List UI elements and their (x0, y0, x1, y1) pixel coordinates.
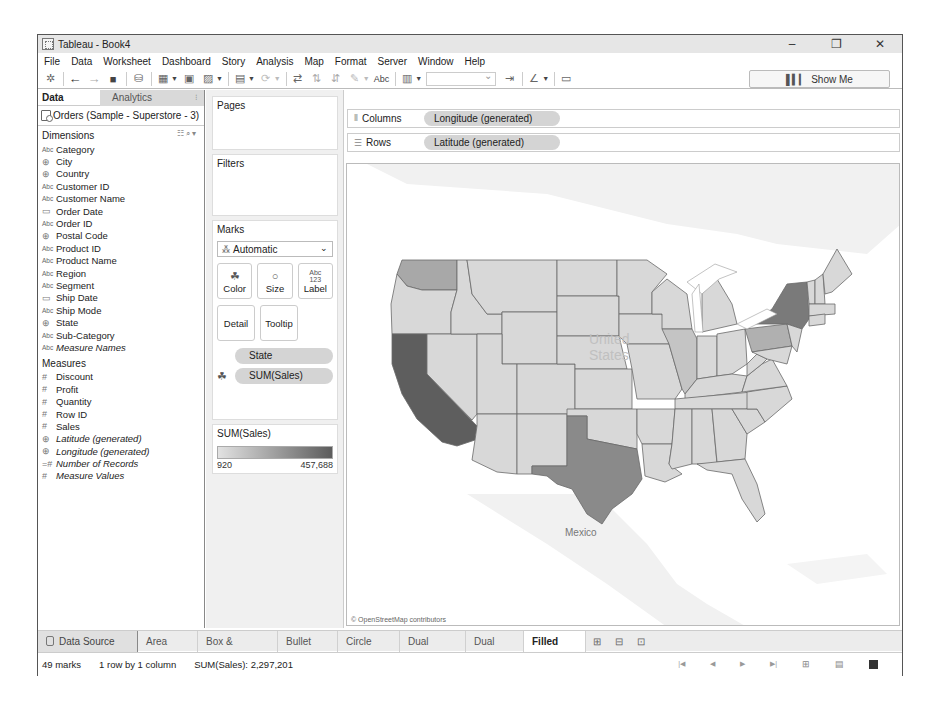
pin-icon[interactable]: ⁝ (195, 90, 198, 106)
menu-story[interactable]: Story (222, 56, 245, 67)
new-worksheet-icon[interactable]: ▦ (156, 72, 170, 86)
field-product-id[interactable]: AbcProduct ID (38, 242, 204, 254)
data-source-item[interactable]: Orders (Sample - Superstore - 3) (38, 106, 204, 126)
menu-analysis[interactable]: Analysis (256, 56, 293, 67)
chevron-down-icon[interactable]: ▾ (192, 129, 198, 138)
field-profit[interactable]: #Profit (38, 383, 204, 395)
clear-sheet-icon[interactable]: ▨ (201, 72, 215, 86)
chevron-down-icon[interactable]: ▼ (363, 75, 370, 82)
fit-dropdown[interactable] (426, 72, 496, 86)
map-attribution[interactable]: © OpenStreetMap contributors (351, 616, 446, 623)
state-pill[interactable]: State (235, 348, 333, 364)
close-button[interactable]: ✕ (858, 35, 902, 53)
new-dashboard-icon[interactable]: ⊟ (608, 636, 630, 647)
filters-shelf[interactable]: Filters (212, 154, 338, 216)
new-story-icon[interactable]: ⊡ (630, 636, 652, 647)
field-country[interactable]: ⊕Country (38, 168, 204, 180)
columns-shelf[interactable]: ⦀ Columns Longitude (generated) (347, 109, 900, 128)
us-states-map[interactable]: United States Mexico (347, 164, 900, 626)
field-row-id[interactable]: #Row ID (38, 408, 204, 420)
last-sheet-icon[interactable]: ▶| (770, 660, 777, 668)
presentation-mode-icon[interactable]: ▭ (559, 72, 573, 86)
undo-icon[interactable]: ← (68, 72, 82, 86)
save-icon[interactable]: ■ (106, 72, 120, 86)
field-sub-category[interactable]: AbcSub-Category (38, 329, 204, 341)
chevron-down-icon[interactable]: ▼ (248, 75, 255, 82)
field-state[interactable]: ⊕State (38, 316, 204, 328)
tooltip-button[interactable]: Tooltip (260, 305, 298, 341)
sheet-sorter-icon[interactable]: ⊞ (802, 659, 810, 669)
field-category[interactable]: AbcCategory (38, 143, 204, 155)
longitude-pill[interactable]: Longitude (generated) (424, 111, 560, 126)
show-mark-labels-icon[interactable]: Abc (374, 74, 390, 84)
field-order-date[interactable]: ▭Order Date (38, 205, 204, 217)
field-measure-values[interactable]: #Measure Values (38, 470, 204, 482)
show-me-button[interactable]: ▌▍▎ Show Me (749, 70, 890, 88)
first-sheet-icon[interactable]: |◀ (678, 660, 685, 668)
field-postal-code[interactable]: ⊕Postal Code (38, 230, 204, 242)
field-latitude-generated[interactable]: ⊕Latitude (generated) (38, 433, 204, 445)
rows-shelf[interactable]: ☰ Rows Latitude (generated) (347, 133, 900, 152)
new-data-source-icon[interactable]: ⛁ (131, 72, 145, 86)
field-customer-name[interactable]: AbcCustomer Name (38, 193, 204, 205)
new-worksheet-icon[interactable]: ⊞ (586, 636, 608, 647)
field-order-id[interactable]: AbcOrder ID (38, 217, 204, 229)
chevron-down-icon[interactable]: ▼ (415, 75, 422, 82)
color-button[interactable]: ☘ Color (217, 263, 252, 299)
field-customer-id[interactable]: AbcCustomer ID (38, 180, 204, 192)
next-sheet-icon[interactable]: ▶ (740, 660, 745, 668)
tabs-view-icon[interactable] (869, 660, 878, 669)
menu-server[interactable]: Server (378, 56, 407, 67)
field-city[interactable]: ⊕City (38, 155, 204, 167)
tab-data[interactable]: Data (38, 90, 100, 106)
swap-icon[interactable]: ⇄ (291, 72, 305, 86)
menu-worksheet[interactable]: Worksheet (103, 56, 151, 67)
run-update-icon[interactable]: ⟳ (259, 72, 273, 86)
field-number-of-records[interactable]: =#Number of Records (38, 457, 204, 469)
mark-type-dropdown[interactable]: ⁂ Automatic ⌄ (217, 241, 333, 257)
view-size-icon[interactable]: ▥ (400, 72, 414, 86)
view-toggle-icon[interactable]: ☷ (177, 129, 186, 138)
latitude-pill[interactable]: Latitude (generated) (424, 135, 560, 150)
field-product-name[interactable]: AbcProduct Name (38, 255, 204, 267)
menu-map[interactable]: Map (304, 56, 323, 67)
field-sales[interactable]: #Sales (38, 420, 204, 432)
field-measure-names[interactable]: AbcMeasure Names (38, 341, 204, 353)
label-button[interactable]: Abc123 Label (298, 263, 333, 299)
chevron-down-icon[interactable]: ▼ (171, 75, 178, 82)
field-longitude-generated[interactable]: ⊕Longitude (generated) (38, 445, 204, 457)
chevron-down-icon[interactable]: ▼ (274, 75, 281, 82)
restore-button[interactable]: ❐ (814, 35, 858, 53)
size-button[interactable]: ○ Size (257, 263, 292, 299)
sheet-tab-dual-combo[interactable]: Dual combo (400, 631, 466, 652)
sheet-tab-bullet[interactable]: Bullet (278, 631, 338, 652)
chevron-down-icon[interactable]: ▼ (216, 75, 223, 82)
filled-map-view[interactable]: United States Mexico © OpenStreetMap con… (346, 163, 900, 626)
sheet-tab-circle[interactable]: Circle (338, 631, 400, 652)
sheet-tab-area[interactable]: Area (138, 631, 198, 652)
data-source-tab[interactable]: Data Source (38, 631, 138, 652)
sheet-tab-box-whisker[interactable]: Box & whisker (198, 631, 278, 652)
redo-icon[interactable]: → (87, 72, 101, 86)
pages-shelf[interactable]: Pages (212, 96, 338, 150)
filmstrip-icon[interactable]: ▤ (835, 659, 844, 669)
fix-axes-icon[interactable]: ⇥ (502, 72, 516, 86)
tableau-logo-icon[interactable]: ✲ (43, 72, 57, 86)
menu-data[interactable]: Data (71, 56, 92, 67)
menu-file[interactable]: File (44, 56, 60, 67)
tooltip-highlighter-icon[interactable]: ∠ (527, 72, 541, 86)
menu-dashboard[interactable]: Dashboard (162, 56, 211, 67)
previous-sheet-icon[interactable]: ◀ (710, 660, 715, 668)
sort-descending-icon[interactable]: ⇵ (329, 72, 343, 86)
field-segment[interactable]: AbcSegment (38, 279, 204, 291)
field-region[interactable]: AbcRegion (38, 267, 204, 279)
minimize-button[interactable]: – (770, 35, 814, 53)
duplicate-sheet-icon[interactable]: ▣ (182, 72, 196, 86)
field-quantity[interactable]: #Quantity (38, 395, 204, 407)
detail-button[interactable]: Detail (217, 305, 255, 341)
automatic-updates-icon[interactable]: ▤ (233, 72, 247, 86)
field-ship-date[interactable]: ▭Ship Date (38, 292, 204, 304)
highlight-icon[interactable]: ✎ (348, 72, 362, 86)
sheet-tab-filled-map[interactable]: Filled map (524, 631, 586, 652)
menu-help[interactable]: Help (465, 56, 486, 67)
